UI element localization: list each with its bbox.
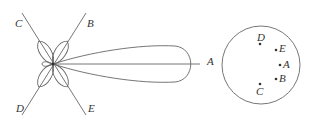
pattern-origin — [52, 63, 55, 66]
point-b — [275, 78, 278, 81]
point-label-c: C — [256, 85, 264, 97]
label-c: C — [15, 17, 23, 29]
label-d: D — [15, 102, 24, 114]
label-b: B — [87, 17, 94, 29]
diagram-canvas: C B D E A D E A B C — [0, 0, 311, 131]
point-d — [259, 43, 262, 46]
point-label-e: E — [278, 42, 286, 54]
point-a — [279, 64, 282, 67]
point-label-d: D — [256, 31, 265, 43]
radiation-pattern-diagram: C B D E A D E A B C — [0, 0, 311, 131]
point-label-b: B — [279, 72, 286, 84]
point-e — [275, 49, 278, 52]
point-label-a: A — [282, 58, 290, 70]
label-a: A — [206, 55, 214, 67]
label-e: E — [87, 102, 95, 114]
